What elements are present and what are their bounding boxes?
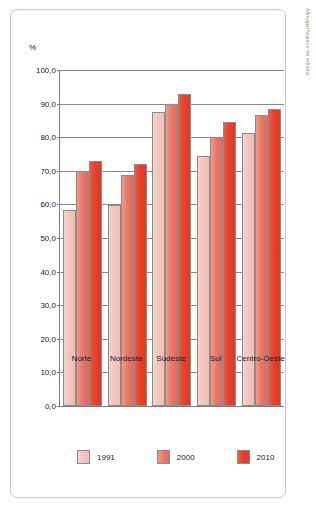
y-axis-tick-label: 40,0 — [40, 267, 56, 276]
y-axis-tick-label: 10,0 — [40, 368, 56, 377]
x-axis-tick-label: Nordeste — [110, 354, 142, 363]
x-axis-tick-label: Sudeste — [156, 354, 185, 363]
legend-swatch — [77, 450, 90, 464]
bar — [89, 161, 102, 406]
legend-item[interactable]: 1991 — [77, 450, 115, 464]
chart-area: % 0,010,020,030,040,050,060,070,080,090,… — [11, 10, 287, 499]
bar — [242, 133, 255, 406]
legend-swatch — [237, 450, 250, 464]
y-axis-tick-label: 80,0 — [40, 133, 56, 142]
y-axis-tick-label: 0,0 — [45, 402, 56, 411]
bar — [134, 164, 147, 406]
legend-item[interactable]: 2010 — [237, 450, 275, 464]
y-axis-tick-label: 90,0 — [40, 99, 56, 108]
bar — [197, 156, 210, 406]
x-axis-tick-label: Sul — [210, 354, 222, 363]
y-axis-tick-label: 30,0 — [40, 301, 56, 310]
x-axis-tick-label: Norte — [72, 354, 92, 363]
chart-legend: 199120002010 — [59, 450, 283, 464]
bar — [76, 171, 89, 406]
legend-label: 2010 — [257, 453, 275, 462]
legend-swatch — [157, 450, 170, 464]
y-axis-unit-label: % — [29, 43, 36, 52]
y-axis-tick-label: 50,0 — [40, 234, 56, 243]
bar — [108, 205, 121, 406]
legend-item[interactable]: 2000 — [157, 450, 195, 464]
y-axis-tick-label: 100,0 — [36, 66, 56, 75]
y-axis-tick-label: 20,0 — [40, 334, 56, 343]
bar — [63, 210, 76, 406]
legend-label: 2000 — [177, 453, 195, 462]
bar — [223, 122, 236, 406]
bar — [210, 137, 223, 406]
bar — [121, 175, 134, 406]
chart-page: Allmaps/Arquivo da editora % 0,010,020,0… — [0, 0, 316, 515]
y-axis-tick-label: 70,0 — [40, 166, 56, 175]
x-axis-tick-label: Centro-Oeste — [237, 354, 285, 363]
y-axis-tick-label: 60,0 — [40, 200, 56, 209]
image-credit: Allmaps/Arquivo da editora — [301, 8, 315, 128]
chart-frame: % 0,010,020,030,040,050,060,070,080,090,… — [10, 9, 286, 498]
legend-label: 1991 — [97, 453, 115, 462]
y-axis-tick-mark — [57, 406, 60, 407]
